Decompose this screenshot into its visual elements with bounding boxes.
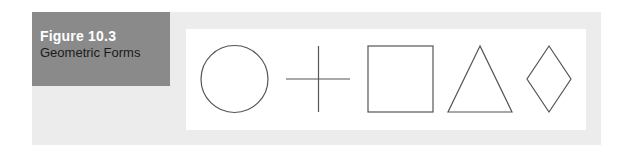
shapes-canvas <box>186 29 586 130</box>
square-shape <box>368 46 433 112</box>
diamond-shape <box>527 46 571 112</box>
figure-title: Geometric Forms <box>40 45 140 60</box>
shapes-diagram <box>186 29 586 130</box>
figure-number: Figure 10.3 <box>40 28 116 44</box>
cross-shape <box>286 46 350 112</box>
triangle-shape <box>448 46 512 112</box>
circle-shape <box>201 46 268 113</box>
